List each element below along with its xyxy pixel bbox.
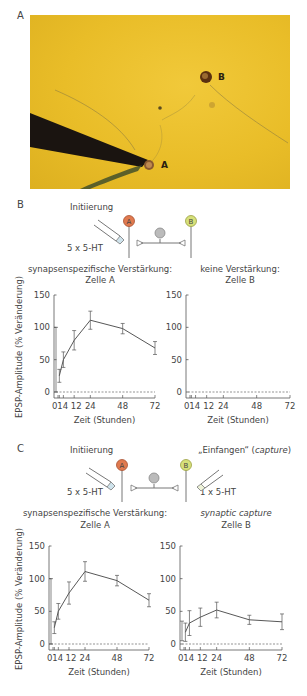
y-tick-label: 100 <box>34 322 50 332</box>
svg-text:A: A <box>127 218 132 226</box>
y-tick-label: 50 <box>39 355 50 365</box>
y-tick-label: 150 <box>160 541 176 551</box>
x-tick-label: 24 <box>80 653 91 663</box>
cell-a-label: A <box>161 160 168 170</box>
x-tick-label: 12 <box>203 401 214 411</box>
pipette-icon <box>94 220 124 244</box>
chart-b-ylabel: EPSP-Amplitude (% Veränderung) <box>14 276 24 418</box>
chart-b-left-title-1: synapsenspezifische Verstärkung: <box>20 264 180 274</box>
y-tick-label: 100 <box>29 574 45 584</box>
data-line <box>54 572 149 628</box>
y-tick-label: 100 <box>166 322 182 332</box>
x-tick-label: 72 <box>277 653 288 663</box>
x-tick-label: 12 <box>66 653 77 663</box>
chart-c-left-title-2: Zelle A <box>45 520 145 530</box>
chart-b-right-title-2: Zelle B <box>190 275 290 285</box>
micrograph-drawing <box>30 15 290 189</box>
y-tick-label: 0 <box>40 639 45 649</box>
chart-c-right-title-1: synaptic capture <box>186 508 286 518</box>
x-tick-label: 48 <box>112 653 123 663</box>
schematic-b-initiation-label: Initiierung <box>70 202 113 212</box>
x-tick-label: 24 <box>211 653 222 663</box>
x-tick-label: 72 <box>150 401 161 411</box>
schematic-c-diagram: A B <box>85 456 225 502</box>
y-tick-label: 50 <box>34 606 45 616</box>
chart-c-cell-a: 05010015001412244872Zeit (Stunden) <box>20 536 165 696</box>
x-tick-label: 014 <box>178 653 194 663</box>
y-tick-label: 0 <box>45 387 50 397</box>
x-tick-label: 72 <box>285 401 296 411</box>
neuron-b-icon: B <box>181 460 192 503</box>
schematic-c-capture-label: „Einfangen“ (capture) <box>198 445 291 455</box>
capture-label-italic: capture <box>255 445 288 455</box>
data-line <box>185 610 282 632</box>
x-tick-label: 014 <box>184 401 200 411</box>
chart-b-left-title-2: Zelle A <box>50 275 150 285</box>
chart-c-cell-b: 05010015001412244872Zeit (Stunden) <box>152 536 307 696</box>
capture-label-prefix: „Einfangen“ ( <box>198 445 255 455</box>
synapse-icon <box>131 473 178 491</box>
micrograph-photo: A B <box>30 15 290 189</box>
cell-b-label: B <box>218 72 225 82</box>
chart-b-cell-b: 05010015001412244872Zeit (Stunden) <box>160 285 307 430</box>
x-tick-label: 24 <box>218 401 229 411</box>
panel-c-label: C <box>17 443 24 454</box>
x-tick-label: 48 <box>117 401 128 411</box>
y-tick-label: 50 <box>171 355 182 365</box>
y-tick-label: 150 <box>166 290 182 300</box>
chart-b-cell-a: 05010015001412244872Zeit (Stunden) <box>25 285 170 430</box>
schematic-b-diagram: A B <box>90 212 200 258</box>
x-axis-label: Zeit (Stunden) <box>200 667 262 677</box>
svg-text:A: A <box>120 462 125 470</box>
neuron-a-icon: A <box>117 460 128 503</box>
x-tick-label: 014 <box>47 653 63 663</box>
y-tick-label: 0 <box>177 387 182 397</box>
x-tick-label: 12 <box>71 401 82 411</box>
synapse-icon <box>137 228 185 246</box>
chart-b-right-title-1: keine Verstärkung: <box>190 264 290 274</box>
x-axis-label: Zeit (Stunden) <box>68 667 130 677</box>
x-tick-label: 48 <box>251 401 262 411</box>
capture-label-suffix: ) <box>288 445 291 455</box>
panel-a-label: A <box>17 10 24 21</box>
y-tick-label: 150 <box>29 541 45 551</box>
pipette-left-icon <box>86 468 115 490</box>
panel-b-label: B <box>17 199 24 210</box>
svg-text:B: B <box>189 218 194 226</box>
x-tick-label: 014 <box>52 401 68 411</box>
x-tick-label: 12 <box>197 653 208 663</box>
neuron-a-icon: A <box>124 216 135 259</box>
y-tick-label: 0 <box>171 639 176 649</box>
svg-text:B: B <box>184 462 189 470</box>
schematic-c-initiation-label: Initiierung <box>70 445 113 455</box>
x-tick-label: 24 <box>85 401 96 411</box>
y-tick-label: 50 <box>165 606 176 616</box>
chart-c-right-title-2: Zelle B <box>186 520 286 530</box>
neuron-b-icon: B <box>186 216 197 259</box>
x-axis-label: Zeit (Stunden) <box>207 415 269 425</box>
data-line <box>59 320 155 376</box>
chart-c-left-title-1: synapsenspezifische Verstärkung: <box>15 508 175 518</box>
y-tick-label: 100 <box>160 574 176 584</box>
x-axis-label: Zeit (Stunden) <box>74 415 136 425</box>
x-tick-label: 48 <box>244 653 255 663</box>
y-tick-label: 150 <box>34 290 50 300</box>
pipette-right-icon <box>197 470 223 491</box>
